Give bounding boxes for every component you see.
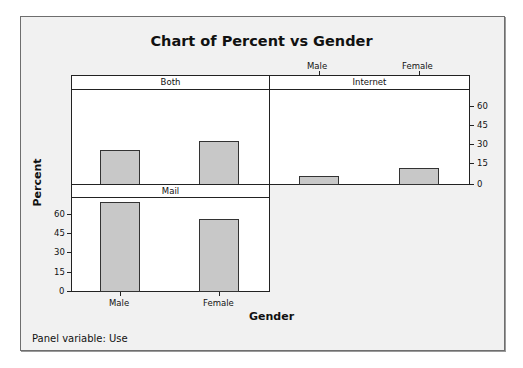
left-ytick-30	[67, 252, 71, 253]
panel-variable-note: Panel variable: Use	[32, 333, 128, 344]
bottom-xtick-female	[219, 292, 220, 296]
strip-internet: Internet	[269, 75, 470, 90]
left-ylabel-0: 0	[59, 286, 64, 296]
right-ytick-60	[470, 106, 474, 107]
right-ylabel-45: 45	[477, 120, 488, 130]
right-ylabel-30: 30	[477, 139, 488, 149]
right-ytick-30	[470, 144, 474, 145]
bar-both-female	[199, 141, 239, 185]
right-ylabel-60: 60	[477, 101, 488, 111]
chart-title: Chart of Percent vs Gender	[0, 33, 523, 49]
strip-both: Both	[71, 75, 270, 90]
left-ylabel-45: 45	[54, 228, 65, 238]
bottom-xlabel-male: Male	[109, 298, 129, 308]
right-ylabel-0: 0	[477, 179, 482, 189]
left-ytick-60	[67, 214, 71, 215]
left-ylabel-15: 15	[54, 267, 65, 277]
left-ylabel-30: 30	[54, 247, 65, 257]
panel-internet	[269, 88, 470, 185]
x-axis-title: Gender	[249, 310, 294, 323]
top-xlabel-male: Male	[307, 61, 327, 71]
right-ytick-15	[470, 163, 474, 164]
left-ytick-15	[67, 272, 71, 273]
right-ytick-45	[470, 125, 474, 126]
bottom-xlabel-female: Female	[203, 298, 234, 308]
bottom-xtick-male	[120, 292, 121, 296]
right-ylabel-15: 15	[477, 158, 488, 168]
left-ytick-45	[67, 233, 71, 234]
right-ytick-0	[470, 184, 474, 185]
y-axis-title: Percent	[31, 153, 44, 213]
bar-mail-female	[199, 219, 239, 292]
strip-mail: Mail	[71, 184, 270, 198]
left-ylabel-60: 60	[54, 209, 65, 219]
bar-internet-male	[299, 176, 339, 185]
left-ytick-0	[67, 291, 71, 292]
bar-both-male	[100, 150, 140, 185]
top-xlabel-female: Female	[402, 61, 433, 71]
bar-mail-male	[100, 202, 140, 292]
bar-internet-female	[399, 168, 439, 185]
